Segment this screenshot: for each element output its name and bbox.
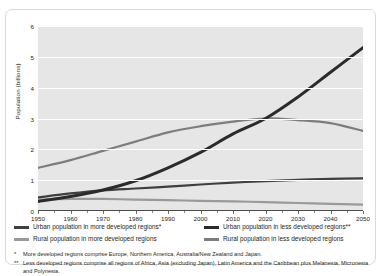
chart-card: Population (billions) 0123456 1950196019… [5,9,376,265]
x-tick-mark-minor [347,211,348,213]
x-tick-mark [168,211,169,214]
x-tick-mark [266,211,267,214]
gridline [38,57,363,58]
series-line [38,118,363,167]
x-tick-label: 2000 [194,215,208,222]
x-tick-mark [103,211,104,214]
y-tick-label: 5 [20,53,34,60]
legend-swatch-icon [204,226,219,229]
plot-area [38,26,363,211]
x-tick-mark [298,211,299,214]
y-tick-label: 4 [20,84,34,91]
x-tick-mark [233,211,234,214]
y-tick-label: 0 [20,208,34,215]
footnote-marker: * [14,250,23,258]
x-tick-label: 1970 [96,215,110,222]
x-tick-mark-minor [314,211,315,213]
gridline [38,26,363,27]
legend-swatch-icon [204,238,219,241]
x-tick-mark [38,211,39,214]
gridline [38,149,363,150]
legend-item[interactable]: Rural population in less developed regio… [204,236,343,242]
x-tick-mark-minor [217,211,218,213]
x-tick-mark-minor [54,211,55,213]
gridline [38,119,363,120]
series-line [38,199,363,205]
legend-item[interactable]: Rural population in more developed regio… [14,236,157,242]
chart-legend: Urban population in more developed regio… [14,224,374,247]
legend-label: Rural population in more developed regio… [33,236,157,242]
x-tick-label: 1950 [31,215,45,222]
y-axis-tick-labels: 0123456 [20,20,34,206]
legend-item[interactable]: Urban population in more developed regio… [14,224,161,230]
footnote-text: More developed regions comprise Europe, … [23,250,262,258]
x-tick-label: 1990 [161,215,175,222]
chart-figure: Population (billions) 0123456 1950196019… [6,10,377,210]
x-tick-mark [331,211,332,214]
chart-footnotes: *More developed regions comprise Europe,… [14,250,370,276]
x-tick-label: 1980 [129,215,143,222]
footnote: **Less developed regions comprise all re… [14,259,370,275]
x-tick-mark [136,211,137,214]
legend-label: Urban population in more developed regio… [33,224,161,230]
legend-swatch-icon [14,226,29,229]
y-tick-label: 2 [20,146,34,153]
x-tick-label: 2010 [226,215,240,222]
footnote-marker: ** [14,259,23,275]
legend-item[interactable]: Urban population in less developed regio… [204,224,351,230]
x-tick-label: 2020 [259,215,273,222]
y-tick-label: 6 [20,23,34,30]
x-tick-mark-minor [282,211,283,213]
x-tick-label: 2050 [356,215,370,222]
x-tick-mark [71,211,72,214]
x-tick-mark [201,211,202,214]
y-tick-label: 3 [20,115,34,122]
x-tick-mark-minor [87,211,88,213]
footnote-text: Less developed regions comprise all regi… [23,259,370,275]
x-tick-label: 1960 [64,215,78,222]
x-tick-label: 2040 [324,215,338,222]
legend-label: Urban population in less developed regio… [223,224,351,230]
legend-swatch-icon [14,238,29,241]
x-tick-mark-minor [152,211,153,213]
gridline [38,180,363,181]
legend-label: Rural population in less developed regio… [223,236,343,242]
x-tick-mark-minor [119,211,120,213]
x-tick-mark-minor [184,211,185,213]
x-tick-label: 2030 [291,215,305,222]
x-tick-mark [363,211,364,214]
gridline [38,88,363,89]
x-tick-mark-minor [249,211,250,213]
footnote: *More developed regions comprise Europe,… [14,250,370,258]
y-tick-label: 1 [20,177,34,184]
